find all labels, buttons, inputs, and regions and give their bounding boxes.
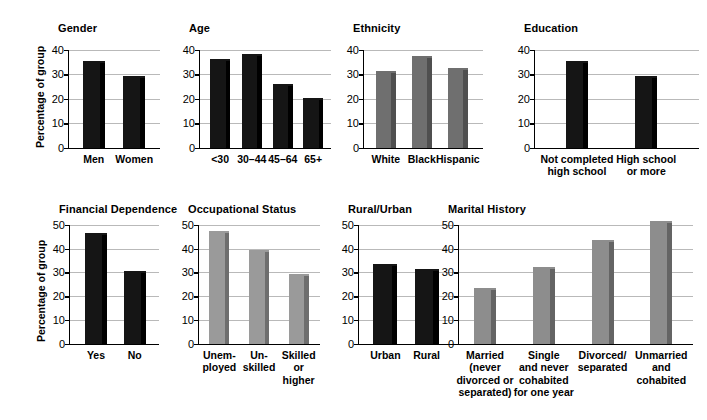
y-tick-label: 20 <box>518 93 530 104</box>
y-tick-label: 40 <box>342 243 354 254</box>
y-tick-mark <box>530 74 534 75</box>
bar-unmarried-and-cohabited <box>650 221 672 343</box>
gridline <box>199 123 331 124</box>
bar-shadow-edge <box>226 61 230 148</box>
bar-black <box>412 56 432 148</box>
plot-area: 01020304050YesNo <box>69 225 159 345</box>
gridline <box>198 249 320 250</box>
y-tick-label: 10 <box>52 118 64 129</box>
y-tick-label: 20 <box>182 291 194 302</box>
chart-panel-gender: GenderPercentage of group010203040MenWom… <box>0 0 707 420</box>
x-axis-line <box>458 344 693 345</box>
y-tick-mark <box>354 272 358 273</box>
y-tick-mark <box>530 50 534 51</box>
x-tick-label: Women <box>107 153 161 165</box>
y-tick-mark <box>359 148 363 149</box>
bar-skilled-or-higher <box>289 274 309 344</box>
bar-no <box>124 271 146 343</box>
bar-shadow-edge <box>265 252 269 344</box>
y-tick-mark <box>454 249 458 250</box>
bar-fill <box>474 288 496 344</box>
bar-rural <box>415 269 439 344</box>
gridline <box>358 249 456 250</box>
gridline <box>198 225 320 226</box>
gridline <box>358 272 456 273</box>
gridline <box>68 74 160 75</box>
y-axis-line <box>458 225 459 345</box>
y-tick-label: 40 <box>347 45 359 56</box>
plot-area: 010203040MenWomen <box>68 50 160 149</box>
bar-yes <box>85 233 107 343</box>
y-tick-label: 50 <box>182 220 194 231</box>
gridline <box>199 99 331 100</box>
gridline <box>363 74 483 75</box>
x-tick-label: Skilledorhigher <box>277 349 321 386</box>
bar-shadow-edge <box>391 73 395 148</box>
y-tick-mark <box>65 249 69 250</box>
y-tick-mark <box>64 50 68 51</box>
y-tick-mark <box>454 225 458 226</box>
y-tick-label: 30 <box>182 267 194 278</box>
bar-shadow-edge <box>583 63 588 148</box>
bar-shadow-edge <box>288 86 292 147</box>
y-tick-label: 10 <box>442 314 454 325</box>
bar-shadow-edge <box>427 58 431 148</box>
y-tick-mark <box>65 320 69 321</box>
chart-panel-education: Education010203040Not completedhigh scho… <box>0 0 707 420</box>
bar-not-completed-high-school <box>566 61 588 148</box>
chart-title: Education <box>524 22 578 34</box>
x-tick-label: Not completedhigh school <box>532 153 622 178</box>
gridline <box>363 50 483 51</box>
y-tick-mark <box>65 344 69 345</box>
x-tick-label: Singleand nevercohabitedfor one year <box>509 349 579 399</box>
y-axis-line <box>363 50 364 149</box>
bar-fill <box>123 76 145 148</box>
x-axis-line <box>534 148 699 149</box>
x-axis-line <box>68 148 160 149</box>
y-tick-label: 10 <box>53 314 65 325</box>
y-axis-line <box>198 225 199 345</box>
y-tick-mark <box>359 74 363 75</box>
y-tick-label: 40 <box>442 243 454 254</box>
y-tick-label: 0 <box>524 142 530 153</box>
gridline <box>534 50 699 51</box>
y-axis-label: Percentage of group <box>35 240 47 342</box>
y-tick-mark <box>195 123 199 124</box>
bar-shadow-edge <box>609 242 614 343</box>
gridline <box>534 123 699 124</box>
y-tick-mark <box>454 296 458 297</box>
y-tick-mark <box>64 74 68 75</box>
y-tick-label: 0 <box>59 338 65 349</box>
y-tick-label: 0 <box>189 142 195 153</box>
x-tick-label: Men <box>67 153 121 165</box>
y-tick-mark <box>194 225 198 226</box>
gridline <box>458 249 693 250</box>
bar-shadow-edge <box>257 56 261 148</box>
y-axis-line <box>68 50 69 149</box>
y-tick-label: 10 <box>182 314 194 325</box>
y-tick-label: 30 <box>342 267 354 278</box>
plot-area: 01020304050Married(neverdivorced orsepar… <box>458 225 693 345</box>
y-tick-mark <box>354 296 358 297</box>
x-tick-label: Unem-ployed <box>197 349 241 374</box>
x-tick-label: Rural <box>404 349 450 361</box>
y-tick-label: 10 <box>183 118 195 129</box>
bar-fill <box>635 76 657 148</box>
y-tick-mark <box>195 99 199 100</box>
x-tick-label: No <box>115 349 155 361</box>
chart-panel-marital-history: Marital History01020304050Married(neverd… <box>0 0 707 420</box>
y-tick-mark <box>454 272 458 273</box>
x-tick-label: <30 <box>203 153 237 165</box>
y-tick-mark <box>194 344 198 345</box>
y-tick-label: 30 <box>52 69 64 80</box>
y-tick-mark <box>354 249 358 250</box>
chart-panel-ethnicity: Ethnicity010203040WhiteBlackHispanic <box>0 0 707 420</box>
y-tick-mark <box>454 320 458 321</box>
y-tick-mark <box>359 123 363 124</box>
y-tick-label: 10 <box>347 118 359 129</box>
y-tick-mark <box>195 74 199 75</box>
gridline <box>458 225 693 226</box>
y-tick-mark <box>65 225 69 226</box>
y-tick-label: 20 <box>442 291 454 302</box>
y-tick-label: 30 <box>442 267 454 278</box>
